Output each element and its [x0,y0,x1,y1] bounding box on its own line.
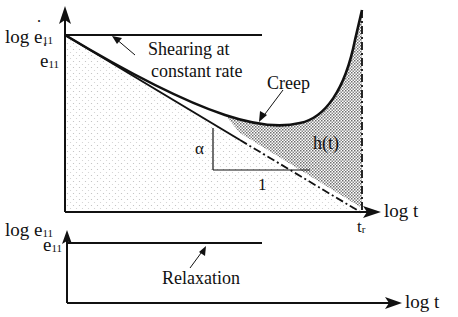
tr-subscript: r [362,223,366,235]
y-label-prefix: log [5,26,34,47]
y-tick-symbol: e [40,51,48,70]
bottom-x-axis-label: log t [405,292,439,311]
slope-alpha-label: α [195,140,204,157]
bottom-y-tick-subscript: 11 [51,242,62,254]
top-x-axis-label: log t [384,201,418,220]
relaxation-label: Relaxation [162,269,240,287]
bottom-y-tick-label: e11 [43,235,62,254]
slope-one-label: 1 [258,176,267,193]
shearing-label-line1: Shearing at [148,40,229,58]
creep-pointer [262,90,283,118]
top-y-tick-label: e11 [40,51,59,70]
y-tick-subscript: 11 [48,58,59,70]
creep-label: Creep [267,74,310,92]
rupture-time-label: tr [357,218,365,235]
bottom-y-label-prefix: log [5,219,34,240]
shearing-label-line2: constant rate [151,62,242,80]
ht-label: h(t) [313,134,339,152]
